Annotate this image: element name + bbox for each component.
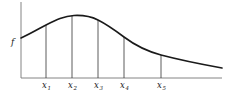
svg-text:x: x: [94, 80, 99, 90]
x-label-2: x 2: [68, 80, 78, 91]
svg-text:2: 2: [73, 85, 78, 91]
x-label-5: x 5: [157, 80, 167, 91]
function-diagram: f x 1 x 2 x 3 x 4 x 5: [0, 0, 234, 94]
svg-text:5: 5: [163, 85, 167, 91]
svg-text:x: x: [42, 80, 47, 90]
function-curve: [21, 15, 222, 68]
x-label-4: x 4: [120, 80, 130, 91]
x-label-1: x 1: [42, 80, 51, 91]
svg-text:3: 3: [100, 85, 104, 91]
svg-text:4: 4: [125, 85, 130, 91]
svg-text:1: 1: [48, 85, 52, 91]
svg-text:x: x: [68, 80, 73, 90]
svg-text:x: x: [120, 80, 125, 90]
x-label-3: x 3: [94, 80, 104, 91]
y-axis-label: f: [10, 37, 16, 47]
svg-text:x: x: [157, 80, 162, 90]
